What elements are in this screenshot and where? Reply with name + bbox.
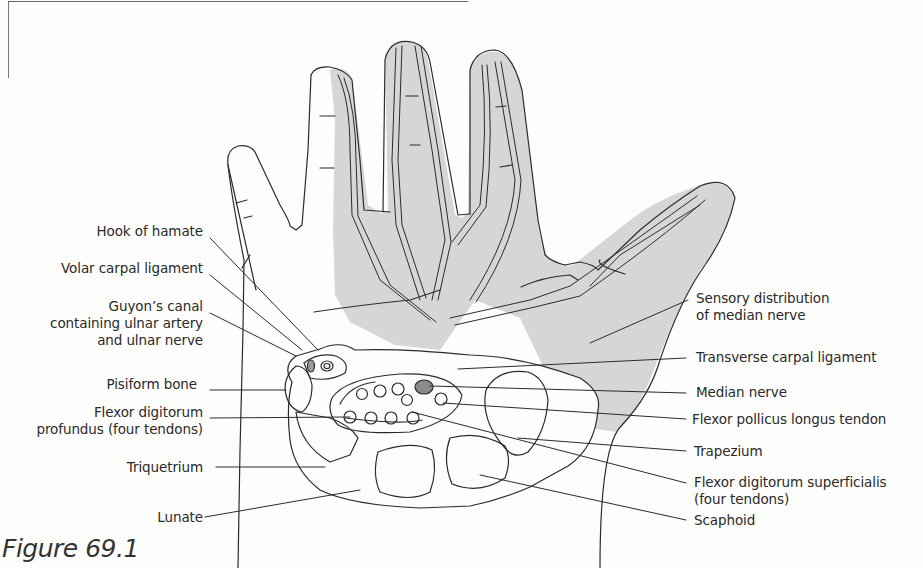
label-lunate: Lunate: [157, 509, 203, 526]
label-triquetrium: Triquetrium: [127, 459, 203, 476]
figure-caption: Figure 69.1: [2, 534, 139, 563]
label-transverse-carpal-ligament: Transverse carpal ligament: [696, 349, 876, 366]
carpal-cross-section-outline: [288, 345, 599, 508]
median-nerve-shape: [415, 380, 433, 394]
label-sensory-distribution: Sensory distribution of median nerve: [696, 290, 830, 324]
label-volar-carpal-ligament: Volar carpal ligament: [61, 260, 203, 277]
little-finger-outline: [228, 75, 311, 290]
label-trapezium: Trapezium: [694, 443, 763, 460]
label-scaphoid: Scaphoid: [694, 512, 755, 529]
label-hook-of-hamate: Hook of hamate: [96, 223, 203, 240]
label-median-nerve: Median nerve: [696, 384, 787, 401]
label-flexor-digitorum-superficialis: Flexor digitorum superficialis (four ten…: [694, 474, 887, 508]
label-flexor-pollicus-longus: Flexor pollicus longus tendon: [692, 411, 886, 428]
label-guyons-canal: Guyon’s canal containing ulnar artery an…: [50, 298, 203, 349]
label-pisiform-bone: Pisiform bone: [106, 376, 197, 393]
label-flexor-digitorum-profundus: Flexor digitorum profundus (four tendons…: [36, 404, 203, 438]
ulnar-artery: [308, 360, 315, 372]
